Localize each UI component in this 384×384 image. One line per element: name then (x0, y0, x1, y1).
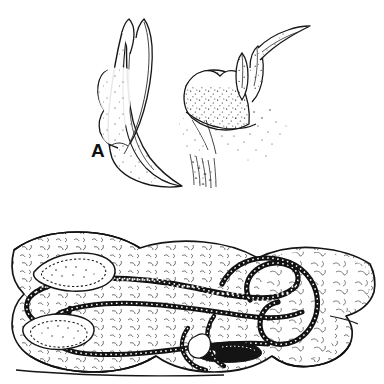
running-head: DECEMBER 20 PLATE (0, 0, 384, 3)
panel-b: B (0, 220, 384, 380)
panel-b-figure (0, 220, 384, 380)
plate-page: DECEMBER 20 PLATE (0, 0, 384, 384)
panel-letter-a: A (91, 141, 105, 160)
panel-a: A (0, 8, 384, 188)
panel-a-figure (0, 8, 384, 188)
